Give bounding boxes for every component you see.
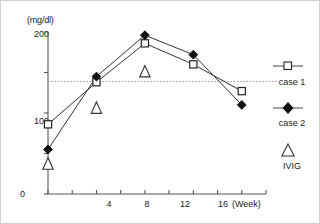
series-markers [43, 31, 246, 169]
data-point-marker [190, 61, 197, 68]
legend-swatches [273, 62, 303, 156]
data-point-marker [44, 121, 51, 128]
legend-swatch-case-2 [273, 103, 303, 114]
ivig-triangle-marker [91, 102, 101, 113]
ivig-triangle-marker [140, 66, 150, 77]
axis-lines [48, 32, 266, 194]
series-line [48, 43, 242, 124]
data-point-marker [44, 145, 53, 154]
data-point-marker [141, 40, 148, 47]
legend-swatch-ivig [282, 144, 294, 156]
series-line [48, 35, 242, 149]
series-lines [48, 35, 242, 149]
plot-canvas [1, 1, 320, 224]
ivig-triangle-marker [43, 158, 53, 169]
x-axis-ticks [48, 190, 266, 194]
data-point-marker [238, 88, 245, 95]
chart-figure: (mg/dl) 200 100 0 4 8 12 16 (Week) case … [0, 0, 320, 224]
legend-swatch-case-1 [273, 62, 303, 70]
